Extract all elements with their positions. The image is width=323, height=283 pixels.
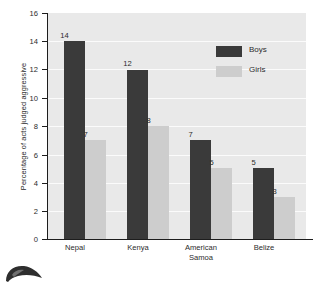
y-tick-label-0: 0: [0, 235, 38, 244]
legend-label-girls: Girls: [249, 65, 265, 74]
legend-swatch-girls-icon: [216, 66, 242, 77]
bar-value-american-samoa-girls: 5: [201, 158, 222, 167]
plot-area: [48, 13, 306, 239]
category-label-kenya: Kenya: [107, 243, 169, 253]
category-label-belize-text: Belize: [233, 243, 295, 253]
corner-logo-icon: [4, 263, 44, 283]
bar-value-nepal-boys: 14: [54, 31, 75, 40]
category-label-american-samoa-line1: American: [170, 243, 232, 253]
category-label-kenya-text: Kenya: [107, 243, 169, 253]
bar-belize-girls: [274, 197, 295, 239]
gridline-12: [48, 69, 306, 70]
y-tick-label-10: 10: [0, 94, 38, 103]
gridline-14: [48, 41, 306, 42]
y-tick-label-6: 6: [0, 151, 38, 160]
bar-chart-figure: Percentage of acts judged aggressive 16 …: [0, 0, 323, 283]
bar-nepal-boys: [64, 41, 85, 239]
x-axis-line: [47, 239, 313, 240]
bar-value-american-samoa-boys: 7: [180, 130, 201, 139]
bar-value-nepal-girls: 7: [75, 130, 96, 139]
bar-value-kenya-boys: 12: [117, 59, 138, 68]
bar-value-belize-boys: 5: [243, 158, 264, 167]
category-label-nepal: Nepal: [44, 243, 106, 253]
bar-nepal-girls: [85, 140, 106, 239]
bar-belize-boys: [253, 168, 274, 239]
bar-value-belize-girls: 3: [264, 187, 285, 196]
bar-american-samoa-boys: [190, 140, 211, 239]
category-label-american-samoa: American Samoa: [170, 243, 232, 262]
legend-label-boys: Boys: [249, 45, 267, 54]
category-label-belize: Belize: [233, 243, 295, 253]
bar-kenya-boys: [127, 70, 148, 240]
y-tick-label-16: 16: [0, 9, 38, 18]
y-tick-label-4: 4: [0, 179, 38, 188]
bar-american-samoa-girls: [211, 168, 232, 239]
category-label-nepal-text: Nepal: [44, 243, 106, 253]
bar-kenya-girls: [148, 126, 169, 239]
category-label-american-samoa-line2: Samoa: [170, 253, 232, 263]
y-tick-label-14: 14: [0, 37, 38, 46]
gridline-10: [48, 98, 306, 99]
gridline-8: [48, 126, 306, 127]
bar-value-kenya-girls: 8: [138, 116, 159, 125]
legend-swatch-boys-icon: [216, 46, 242, 57]
y-tick-label-12: 12: [0, 65, 38, 74]
y-tick-label-2: 2: [0, 207, 38, 216]
y-tick-label-8: 8: [0, 122, 38, 131]
y-axis-line: [47, 13, 48, 240]
